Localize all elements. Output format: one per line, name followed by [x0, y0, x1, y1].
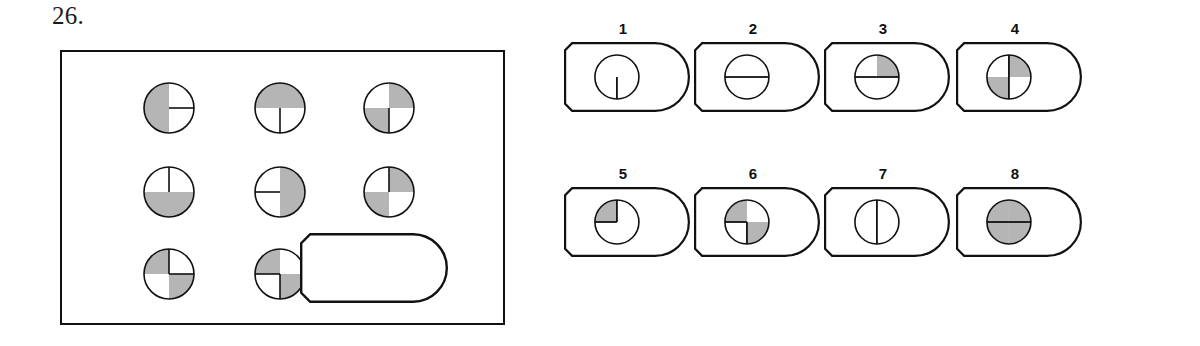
option-tag-shape: [824, 42, 950, 112]
matrix-cell-r1c3: [334, 68, 444, 148]
answer-options: 12345678: [548, 20, 1196, 320]
option-1-label: 1: [548, 20, 698, 37]
figure-circle: [243, 71, 317, 145]
option-7-figure[interactable]: [824, 187, 950, 257]
tag-outline: [301, 234, 447, 302]
matrix-cell-r3c1: [114, 234, 224, 314]
option-tag-shape: [824, 187, 950, 257]
page-title: 26.: [52, 2, 84, 30]
option-8-label: 8: [940, 165, 1090, 182]
option-4-figure[interactable]: [956, 42, 1082, 112]
matrix-cell-r1c2: [225, 68, 335, 148]
matrix-cell-missing-piece: [294, 228, 454, 308]
option-8[interactable]: 8: [940, 165, 1090, 285]
figure-circle: [132, 237, 206, 311]
figure-circle: [352, 71, 426, 145]
option-tag-shape: [564, 42, 690, 112]
option-6-label: 6: [678, 165, 828, 182]
option-tag-shape: [956, 42, 1082, 112]
matrix-grid: [62, 52, 503, 323]
figure-circle: [132, 155, 206, 229]
option-2-label: 2: [678, 20, 828, 37]
option-tag-shape: [956, 187, 1082, 257]
option-6-figure[interactable]: [694, 187, 820, 257]
tag-outline: [565, 43, 689, 111]
figure-circle: [132, 71, 206, 145]
option-4-label: 4: [940, 20, 1090, 37]
option-3-label: 3: [808, 20, 958, 37]
option-5[interactable]: 5: [548, 165, 698, 285]
option-7-label: 7: [808, 165, 958, 182]
option-8-figure[interactable]: [956, 187, 1082, 257]
worksheet-page: 26. 12345678: [0, 0, 1200, 346]
figure-circle: [352, 155, 426, 229]
matrix-cell-r2c1: [114, 152, 224, 232]
tag-outline: [825, 188, 949, 256]
option-tag-shape: [694, 187, 820, 257]
option-2[interactable]: 2: [678, 20, 828, 140]
option-1[interactable]: 1: [548, 20, 698, 140]
option-3[interactable]: 3: [808, 20, 958, 140]
matrix-cell-r1c1: [114, 68, 224, 148]
matrix-cell-r2c2: [225, 152, 335, 232]
tag-outline: [565, 188, 689, 256]
missing-piece-tag: [300, 233, 448, 303]
option-2-figure[interactable]: [694, 42, 820, 112]
matrix-panel: [60, 50, 505, 325]
option-5-figure[interactable]: [564, 187, 690, 257]
matrix-cell-r2c3: [334, 152, 444, 232]
option-7[interactable]: 7: [808, 165, 958, 285]
option-tag-shape: [564, 187, 690, 257]
option-1-figure[interactable]: [564, 42, 690, 112]
option-3-figure[interactable]: [824, 42, 950, 112]
option-5-label: 5: [548, 165, 698, 182]
option-4[interactable]: 4: [940, 20, 1090, 140]
option-6[interactable]: 6: [678, 165, 828, 285]
figure-circle: [243, 155, 317, 229]
option-tag-shape: [694, 42, 820, 112]
